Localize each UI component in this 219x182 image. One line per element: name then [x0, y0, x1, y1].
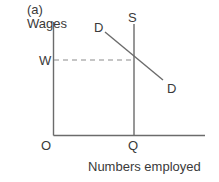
y-axis-title: Wages — [27, 17, 67, 30]
supply-curve-label: S — [128, 11, 137, 24]
demand-curve-label-lower: D — [167, 82, 176, 95]
wage-axis-label: W — [39, 54, 51, 67]
x-axis-title: Numbers employed — [88, 160, 201, 173]
quantity-axis-label: Q — [128, 139, 138, 152]
origin-label: O — [41, 139, 51, 152]
labour-market-diagram: (a) Wages W S D D O Q Numbers employed — [0, 0, 219, 182]
demand-curve-label-upper: D — [94, 21, 103, 34]
panel-letter-label: (a) — [27, 3, 43, 16]
